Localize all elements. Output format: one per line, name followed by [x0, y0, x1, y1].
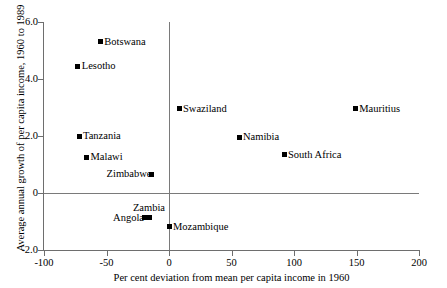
data-point-marker: [167, 224, 172, 229]
x-tick-label: 200: [399, 257, 439, 269]
vertical-zero-line: [169, 22, 170, 250]
x-tick-label: 0: [149, 257, 189, 269]
x-tick-label: -50: [87, 257, 127, 269]
data-point-marker: [77, 134, 82, 139]
y-tick-mark: [38, 136, 44, 137]
y-tick-label: 2.0: [6, 131, 38, 141]
x-tick-label: 150: [337, 257, 377, 269]
data-point-label: South Africa: [288, 149, 341, 160]
data-point-marker: [282, 152, 287, 157]
data-point-label: Angola: [113, 212, 144, 223]
x-tick-label: -100: [24, 257, 64, 269]
x-tick-mark: [107, 251, 108, 256]
data-point-marker: [177, 106, 182, 111]
data-point-label: Mauritius: [359, 103, 400, 114]
data-point-label: Mozambique: [173, 221, 228, 232]
y-tick-mark: [38, 79, 44, 80]
data-point-label: Malawi: [91, 151, 123, 162]
data-point-label: Lesotho: [82, 60, 116, 71]
chart-figure: Average annual growth of per capita inco…: [0, 0, 447, 288]
data-point-label: Zimbabwe: [107, 168, 152, 179]
y-tick-label: 6.0: [6, 17, 38, 27]
x-tick-mark: [44, 251, 45, 256]
y-tick-label: 4.0: [6, 74, 38, 84]
data-point-label: Namibia: [243, 131, 279, 142]
x-tick-label: 50: [212, 257, 252, 269]
data-point-label: Botswana: [104, 36, 145, 47]
data-point-marker: [147, 215, 152, 220]
data-point-marker: [353, 106, 358, 111]
x-axis-title: Per cent deviation from mean per capita …: [44, 272, 419, 283]
data-point-marker: [237, 135, 242, 140]
horizontal-zero-line: [44, 193, 419, 194]
data-point-marker: [84, 155, 89, 160]
y-axis-title: Average annual growth of per capita inco…: [14, 3, 28, 253]
data-point-label: Tanzania: [83, 130, 121, 141]
data-point-marker: [98, 39, 103, 44]
x-tick-label: 100: [274, 257, 314, 269]
x-tick-mark: [357, 251, 358, 256]
y-tick-mark: [38, 22, 44, 23]
x-tick-mark: [419, 251, 420, 256]
x-tick-mark: [169, 251, 170, 256]
y-tick-label: 0: [6, 188, 38, 198]
x-tick-mark: [294, 251, 295, 256]
x-tick-mark: [232, 251, 233, 256]
y-tick-label: -2.0: [6, 245, 38, 255]
data-point-label: Swaziland: [183, 103, 227, 114]
data-point-marker: [75, 64, 80, 69]
